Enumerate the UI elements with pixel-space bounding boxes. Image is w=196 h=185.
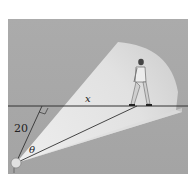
label-x: x — [85, 93, 91, 104]
searchlight-diagram: 20 x θ — [0, 0, 196, 185]
label-theta: θ — [29, 144, 35, 155]
searchlight-icon — [11, 158, 21, 168]
label-distance-20: 20 — [14, 122, 28, 135]
